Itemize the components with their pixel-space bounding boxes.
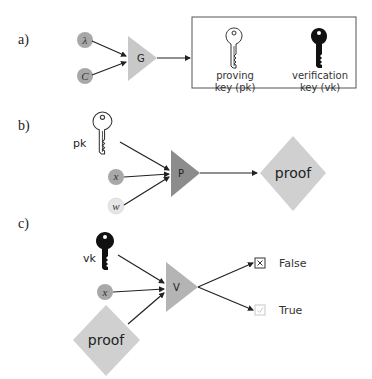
panel-a: a) λ C G proving key (pk) [18, 17, 356, 93]
prover-label: P [178, 168, 184, 179]
lambda-input-node: λ [77, 32, 93, 48]
vk-label: vk [83, 252, 97, 265]
proof-input-node: proof [73, 305, 140, 376]
prover-node: P [171, 150, 200, 197]
generator-node: G [128, 36, 157, 81]
public-input-node: x [97, 284, 113, 300]
generator-label: G [137, 53, 145, 64]
verification-key-icon [96, 232, 114, 270]
zk-snark-diagram: a) λ C G proving key (pk) [0, 0, 372, 379]
lambda-symbol: λ [82, 34, 88, 46]
edge-proof-to-v [128, 293, 164, 324]
verifier-label: V [173, 282, 180, 293]
edge-x-to-v [113, 289, 164, 292]
false-label: False [279, 257, 307, 270]
edge-vk-to-v [118, 255, 164, 283]
panel-c-label: c) [18, 216, 29, 232]
circuit-symbol: C [81, 70, 89, 82]
panel-b-label: b) [18, 118, 30, 134]
verification-key-line1: verification [292, 70, 348, 81]
panel-a-label: a) [18, 32, 29, 48]
panel-b: b) pk x w P proof [18, 112, 326, 214]
panel-c: c) vk x proof V False [18, 216, 307, 376]
edge-v-to-true [198, 287, 253, 310]
edge-w-to-p [124, 177, 169, 205]
true-label: True [278, 304, 303, 317]
edge-pk-to-p [120, 142, 169, 170]
proof-output-label: proof [275, 165, 312, 181]
public-input-node: x [108, 169, 124, 185]
proving-key-icon [93, 112, 112, 154]
check-box-icon [255, 305, 265, 315]
proving-key-line2: key (pk) [215, 82, 256, 93]
verification-key-line2: key (vk) [300, 82, 340, 93]
pk-label: pk [73, 137, 87, 150]
verification-key-icon [311, 28, 327, 68]
proof-input-label: proof [88, 332, 125, 348]
circuit-input-node: C [77, 68, 93, 84]
edge-x-to-p [124, 174, 169, 177]
edge-lambda-to-g [92, 41, 126, 56]
public-input-symbol: x [102, 286, 108, 298]
witness-symbol: w [112, 200, 120, 212]
proving-key-line1: proving [216, 70, 254, 81]
x-box-icon [255, 258, 265, 268]
public-input-symbol: x [113, 170, 119, 182]
proving-key-icon [226, 28, 242, 68]
proof-output-node: proof [260, 136, 326, 211]
witness-node: w [108, 198, 124, 214]
edge-v-to-false [198, 263, 253, 287]
verifier-node: V [166, 262, 198, 312]
edge-c-to-g [92, 62, 126, 75]
